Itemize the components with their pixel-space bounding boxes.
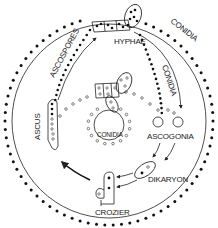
arrow-crozier-to-ascus xyxy=(62,162,90,180)
label-conidia-inner: CONIDIA xyxy=(160,64,179,98)
ascus-structure xyxy=(48,99,58,149)
arrow-ascogonia-to-dikaryon-1 xyxy=(153,143,160,157)
label-ascogonia: ASCOGONIA xyxy=(147,132,195,141)
center-hyphae-structure xyxy=(95,70,135,114)
label-crozier: CROZIER xyxy=(95,208,130,217)
label-hyphae: HYPHAE xyxy=(114,37,146,46)
label-ascus: ASCUS xyxy=(33,113,42,140)
crozier-structure xyxy=(96,172,114,206)
hyphae-structure xyxy=(92,2,145,32)
life-cycle-diagram: HYPHAE CONIDIA CONIDIA ASCOSPORES ASCUS … xyxy=(0,0,218,228)
ascogonium-left xyxy=(153,117,163,127)
arrow-dikaryon-to-crozier-2 xyxy=(117,180,137,187)
label-conidia-center: CONIDIA xyxy=(97,131,124,138)
ascogonium-right xyxy=(173,117,183,127)
open-dot-arc xyxy=(59,91,176,118)
label-dikaryon: DIKARYON xyxy=(148,175,188,184)
arrow-ascogonia-to-dikaryon-2 xyxy=(165,143,175,160)
label-conidia-outer: CONIDIA xyxy=(169,16,200,43)
arrow-dikaryon-to-crozier-1 xyxy=(117,173,133,177)
